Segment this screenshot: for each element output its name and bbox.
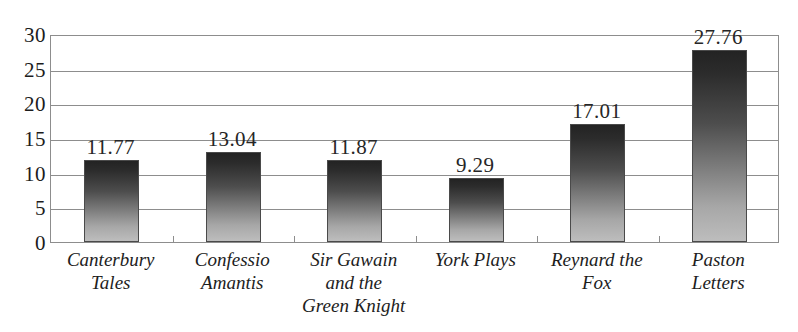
category-label: Sir Gawainand theGreen Knight	[293, 248, 415, 318]
category-label: ConfessioAmantis	[172, 248, 294, 294]
category-label-line: Tales	[50, 271, 172, 294]
category-label-line: Paston	[658, 248, 780, 271]
bar[interactable]	[327, 160, 382, 242]
bar-value-label: 27.76	[694, 27, 743, 48]
category-label-line: Amantis	[172, 271, 294, 294]
y-tick-label: 25	[4, 59, 46, 80]
bar[interactable]	[449, 178, 504, 242]
bar-value-label: 9.29	[456, 155, 494, 176]
category-label-line: Fox	[536, 271, 658, 294]
x-tick	[537, 236, 538, 243]
category-label-line: and the	[293, 271, 415, 294]
category-label-line: Reynard the	[536, 248, 658, 271]
bar-value-label: 11.87	[330, 137, 378, 158]
gridline	[51, 140, 778, 141]
category-label: CanterburyTales	[50, 248, 172, 294]
x-tick	[659, 236, 660, 243]
x-tick	[173, 236, 174, 243]
y-tick-label: 15	[4, 129, 46, 150]
category-label: York Plays	[415, 248, 537, 271]
y-tick-label: 0	[4, 233, 46, 254]
gridline	[51, 105, 778, 106]
category-label-line: Letters	[658, 271, 780, 294]
category-label-line: Canterbury	[50, 248, 172, 271]
bar[interactable]	[84, 160, 139, 242]
x-tick	[416, 236, 417, 243]
bar[interactable]	[206, 152, 261, 242]
y-axis: 051015202530	[0, 0, 46, 332]
bar[interactable]	[570, 124, 625, 242]
bar-chart: 051015202530 CanterburyTalesConfessioAma…	[0, 0, 798, 332]
category-label: PastonLetters	[658, 248, 780, 294]
category-label-line: Confessio	[172, 248, 294, 271]
y-tick-label: 20	[4, 94, 46, 115]
gridline	[51, 71, 778, 72]
y-tick-label: 5	[4, 198, 46, 219]
y-tick-label: 30	[4, 25, 46, 46]
y-tick-label: 10	[4, 163, 46, 184]
category-label-line: Sir Gawain	[293, 248, 415, 271]
gridline	[51, 175, 778, 176]
bar-value-label: 17.01	[572, 101, 621, 122]
category-label-line: York Plays	[415, 248, 537, 271]
plot-area	[50, 35, 779, 243]
gridline	[51, 209, 778, 210]
x-tick	[294, 236, 295, 243]
bar[interactable]	[692, 50, 747, 242]
bar-value-label: 13.04	[208, 129, 257, 150]
x-axis-category-labels: CanterburyTalesConfessioAmantisSir Gawai…	[50, 248, 779, 332]
bar-value-label: 11.77	[87, 137, 135, 158]
category-label: Reynard theFox	[536, 248, 658, 294]
category-label-line: Green Knight	[293, 294, 415, 317]
